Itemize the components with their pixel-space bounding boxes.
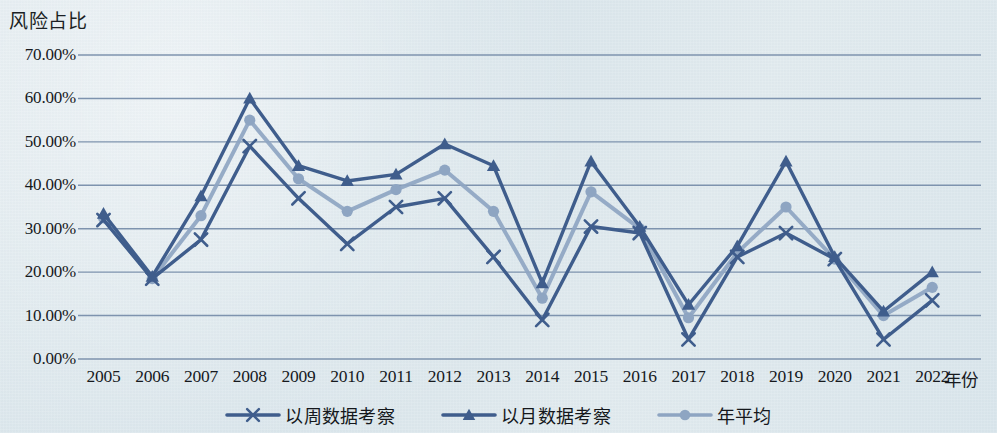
data-point-marker-circle	[927, 282, 938, 293]
legend-swatch-x-icon	[225, 405, 281, 425]
x-axis-tick-label: 2010	[330, 366, 364, 387]
data-point-marker-circle	[244, 115, 255, 126]
data-point-marker-circle	[342, 206, 353, 217]
legend-label: 以周数据考察	[285, 402, 395, 428]
data-point-marker-triangle	[243, 92, 256, 104]
x-axis-tick-label: 2020	[818, 366, 852, 387]
legend-item-3[interactable]: 年平均	[657, 402, 772, 428]
x-axis-tick-label: 2017	[671, 366, 705, 387]
x-axis-tick-label: 2007	[184, 366, 218, 387]
legend-swatch-circle-icon	[657, 405, 713, 425]
series-line	[104, 98, 933, 311]
x-axis-tick-label: 2009	[281, 366, 315, 387]
data-point-marker-x	[877, 333, 889, 345]
x-axis-tick-label: 2018	[720, 366, 754, 387]
x-axis-tick-label: 2013	[476, 366, 510, 387]
series-2	[97, 92, 939, 317]
data-point-marker-x	[292, 192, 304, 204]
chart-legend: 以周数据考察以月数据考察年平均	[0, 402, 997, 428]
x-axis-tick-label: 2008	[233, 366, 267, 387]
data-point-marker-triangle	[97, 207, 110, 219]
x-axis-tick-label: 2005	[86, 366, 120, 387]
data-point-marker-x	[341, 238, 353, 250]
legend-item-1[interactable]: 以周数据考察	[225, 402, 395, 428]
legend-swatch-triangle-icon	[441, 405, 497, 425]
data-point-marker-circle	[390, 184, 401, 195]
data-point-marker-circle	[780, 201, 791, 212]
data-point-marker-x	[487, 251, 499, 263]
x-axis-tick-label: 2014	[525, 366, 559, 387]
data-point-marker-circle	[680, 410, 691, 421]
x-axis-tick-label: 2019	[769, 366, 803, 387]
data-point-marker-triangle	[438, 137, 451, 149]
series-layer	[97, 92, 939, 346]
data-point-marker-triangle	[194, 190, 207, 202]
risk-proportion-line-chart: 风险占比 0.00%10.00%20.00%30.00%40.00%50.00%…	[0, 0, 997, 433]
data-point-marker-triangle	[584, 155, 597, 167]
x-axis-tick-label: 2016	[623, 366, 657, 387]
data-point-marker-circle	[195, 210, 206, 221]
data-point-marker-circle	[683, 312, 694, 323]
legend-label: 以月数据考察	[501, 402, 611, 428]
x-axis-tick-label: 2015	[574, 366, 608, 387]
data-point-marker-circle	[537, 293, 548, 304]
x-axis-tick-label: 2012	[428, 366, 462, 387]
x-axis-tick-label: 2021	[866, 366, 900, 387]
series-3	[98, 115, 938, 324]
data-point-marker-circle	[488, 206, 499, 217]
data-point-marker-circle	[293, 173, 304, 184]
legend-label: 年平均	[717, 402, 772, 428]
x-axis-tick-label: 2006	[135, 366, 169, 387]
series-line	[104, 146, 933, 339]
data-point-marker-x	[682, 333, 694, 345]
x-axis-tick-label: 2011	[379, 366, 413, 387]
legend-item-2[interactable]: 以月数据考察	[441, 402, 611, 428]
data-point-marker-x	[926, 294, 938, 306]
data-point-marker-triangle	[536, 276, 549, 288]
data-point-marker-x	[195, 233, 207, 245]
gridlines	[78, 55, 981, 359]
data-point-marker-triangle	[926, 266, 939, 278]
x-axis-title: 年份	[944, 366, 978, 391]
data-point-marker-circle	[585, 186, 596, 197]
data-point-marker-triangle	[779, 155, 792, 167]
data-point-marker-circle	[439, 164, 450, 175]
